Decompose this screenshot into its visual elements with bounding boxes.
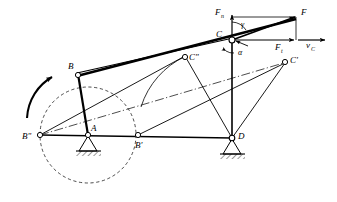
label-C-prime: C' [290, 55, 299, 65]
joint-node-A[interactable] [85, 132, 90, 137]
label-Fn-subscript: n [221, 13, 224, 19]
joint-node-Cpp[interactable] [182, 54, 187, 59]
label-F: F [300, 7, 307, 17]
joint-node-Bpp[interactable] [37, 132, 42, 137]
diagram-background [0, 0, 337, 202]
joint-node-B[interactable] [75, 72, 80, 77]
label-B-prime: B' [135, 140, 143, 150]
label-Ft-base: F [274, 42, 281, 52]
joint-node-D[interactable] [229, 135, 235, 141]
label-C-double-prime: C" [189, 52, 199, 62]
label-A: A [90, 123, 97, 133]
linkage-diagram: B B" B' A C C" C' D F F n F t v C γ α [0, 0, 337, 202]
label-D: D [237, 131, 245, 141]
label-B: B [68, 61, 74, 71]
label-C: C [216, 29, 223, 39]
label-vC-base: v [306, 40, 310, 50]
joint-node-Bp[interactable] [135, 132, 140, 137]
joint-node-C[interactable] [229, 37, 235, 43]
label-B-double-prime: B" [22, 131, 31, 141]
joint-node-Cp[interactable] [282, 59, 287, 64]
figure-root: B B" B' A C C" C' D F F n F t v C γ α [0, 0, 337, 202]
label-Fn-base: F [214, 7, 221, 17]
